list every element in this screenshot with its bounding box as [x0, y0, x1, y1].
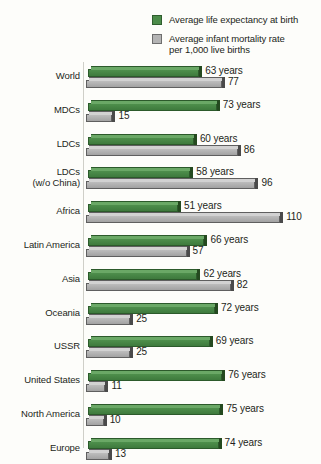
- bar-end-cap: [220, 404, 223, 415]
- infant-mortality-value-label: 82: [237, 279, 248, 291]
- infant-mortality-value-label: 96: [261, 177, 272, 189]
- bar-row: Latin America66 years57: [0, 233, 321, 267]
- row-label-africa: Africa: [0, 205, 80, 216]
- bar-row: LDCs60 years86: [0, 132, 321, 166]
- infant-mortality-bar: [86, 111, 112, 123]
- bar-body: [86, 215, 280, 223]
- bar-row: Africa51 years110: [0, 199, 321, 233]
- bar-front-face: [86, 80, 222, 88]
- bar-end-cap: [199, 66, 202, 77]
- bar-top-face: [89, 280, 234, 284]
- bar-body: [88, 137, 194, 145]
- infant-mortality-value-label: 77: [228, 76, 239, 88]
- bar-end-cap: [255, 178, 258, 189]
- bar-front-face: [88, 204, 178, 212]
- bar-row: United States76 years11: [0, 368, 321, 402]
- bar-front-face: [86, 249, 187, 257]
- infant-mortality-value-label: 110: [286, 211, 302, 223]
- row-label-ldcs: LDCs: [0, 138, 80, 149]
- life-expectancy-value-label: 73 years: [223, 99, 261, 111]
- row-label-world: World: [0, 70, 80, 81]
- bar-body: [88, 238, 204, 246]
- bar-front-face: [88, 441, 219, 449]
- bar-top-face: [91, 404, 223, 408]
- bar-top-face: [89, 212, 283, 216]
- infant-mortality-bar: [86, 314, 130, 326]
- bar-top-face: [91, 134, 197, 138]
- bar-top-face: [91, 235, 207, 239]
- infant-mortality-bar: [86, 347, 130, 359]
- bar-front-face: [86, 148, 238, 156]
- row-label-north-america: North America: [0, 408, 80, 419]
- bar-end-cap: [130, 314, 133, 325]
- infant-mortality-value-label: 15: [118, 110, 129, 122]
- bar-body: [88, 103, 217, 111]
- bar-row: North America75 years10: [0, 402, 321, 436]
- row-label-latin-america: Latin America: [0, 239, 80, 250]
- life-expectancy-value-label: 51 years: [184, 200, 222, 212]
- bar-end-cap: [197, 269, 200, 280]
- bar-end-cap: [280, 212, 283, 223]
- bar-front-face: [88, 170, 190, 178]
- bar-body: [88, 407, 220, 415]
- bar-body: [86, 384, 105, 392]
- bar-row: USSR69 years25: [0, 334, 321, 368]
- infant-mortality-bar: [86, 145, 238, 157]
- bar-row: Europe74 years13: [0, 436, 321, 464]
- bar-front-face: [88, 103, 217, 111]
- bar-front-face: [86, 181, 255, 189]
- life-expectancy-value-label: 62 years: [203, 268, 241, 280]
- life-expectancy-value-label: 75 years: [226, 403, 264, 415]
- bar-end-cap: [204, 235, 207, 246]
- bar-end-cap: [190, 167, 193, 178]
- bar-body: [88, 373, 222, 381]
- bar-front-face: [86, 452, 109, 460]
- infant-mortality-bar: [86, 415, 104, 427]
- bar-end-cap: [187, 246, 190, 257]
- bar-row: Oceania72 years25: [0, 301, 321, 335]
- infant-mortality-value-label: 11: [111, 380, 121, 392]
- bar-front-face: [88, 272, 197, 280]
- bar-row: Asia62 years82: [0, 267, 321, 301]
- infant-mortality-value-label: 25: [136, 313, 147, 325]
- bar-front-face: [86, 215, 280, 223]
- bar-body: [88, 441, 219, 449]
- life-expectancy-value-label: 76 years: [228, 369, 266, 381]
- life-expectancy-value-label: 60 years: [200, 133, 238, 145]
- bar-top-face: [89, 178, 258, 182]
- bar-top-face: [89, 314, 133, 318]
- bar-front-face: [86, 418, 104, 426]
- bar-body: [86, 418, 104, 426]
- bar-end-cap: [238, 145, 241, 156]
- bar-front-face: [88, 373, 222, 381]
- row-label-europe: Europe: [0, 442, 80, 453]
- bar-body: [86, 114, 112, 122]
- bar-end-cap: [104, 415, 107, 426]
- bar-top-face: [91, 303, 218, 307]
- infant-mortality-bar: [86, 77, 222, 89]
- bar-top-face: [89, 77, 225, 81]
- bar-top-face: [91, 269, 200, 273]
- infant-mortality-bar: [86, 381, 105, 393]
- bar-end-cap: [105, 381, 108, 392]
- infant-mortality-value-label: 25: [136, 346, 147, 358]
- bar-body: [86, 452, 109, 460]
- bar-top-face: [91, 438, 222, 442]
- bar-row: MDCs73 years15: [0, 98, 321, 132]
- bar-body: [86, 181, 255, 189]
- bar-top-face: [91, 370, 225, 374]
- bar-front-face: [86, 283, 231, 291]
- infant-mortality-value-label: 13: [115, 448, 126, 460]
- bar-end-cap: [217, 100, 220, 111]
- bar-row: LDCs (w/o China)58 years96: [0, 165, 321, 199]
- life-expectancy-value-label: 69 years: [216, 335, 254, 347]
- life-expectancy-value-label: 58 years: [196, 166, 234, 178]
- bar-body: [88, 306, 215, 314]
- infant-mortality-value-label: 86: [244, 144, 255, 156]
- bar-body: [88, 204, 178, 212]
- bar-body: [86, 148, 238, 156]
- bar-end-cap: [130, 347, 133, 358]
- bar-front-face: [88, 137, 194, 145]
- bar-body: [88, 69, 199, 77]
- bar-end-cap: [215, 303, 218, 314]
